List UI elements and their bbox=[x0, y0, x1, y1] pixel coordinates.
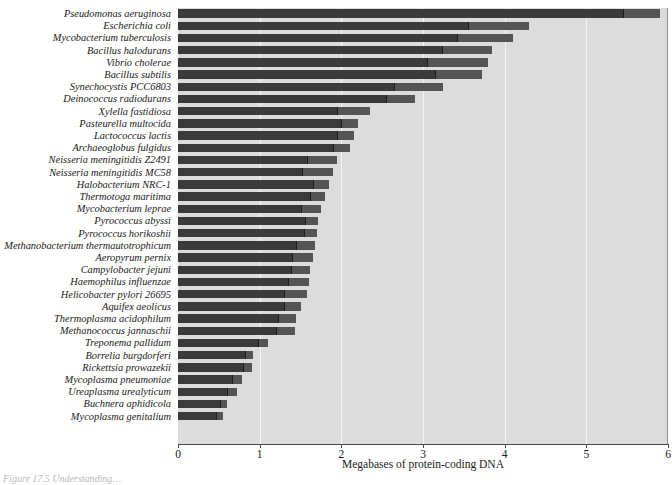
bar-row[interactable] bbox=[178, 130, 667, 142]
y-axis-label: Ureaplasma urealyticum bbox=[68, 386, 171, 398]
y-axis-label: Helicobacter pylori 26695 bbox=[61, 289, 171, 301]
bar-row[interactable] bbox=[178, 398, 667, 410]
bar[interactable] bbox=[178, 241, 315, 249]
bar-row[interactable] bbox=[178, 154, 667, 166]
y-axis-label: Deinococcus radiodurans bbox=[63, 93, 171, 105]
bar[interactable] bbox=[178, 278, 309, 286]
y-axis-label: Pasteurella multocida bbox=[79, 118, 171, 130]
bar[interactable] bbox=[178, 290, 307, 298]
bar-row[interactable] bbox=[178, 81, 667, 93]
bar-row[interactable] bbox=[178, 252, 667, 264]
bar-row[interactable] bbox=[178, 93, 667, 105]
bar[interactable] bbox=[178, 375, 242, 383]
bar[interactable] bbox=[178, 107, 370, 115]
bar-row[interactable] bbox=[178, 276, 667, 288]
bar-row[interactable] bbox=[178, 350, 667, 362]
bar-row[interactable] bbox=[178, 32, 667, 44]
bar[interactable] bbox=[178, 217, 318, 225]
bar[interactable] bbox=[178, 144, 350, 152]
bar[interactable] bbox=[178, 253, 313, 261]
bar[interactable] bbox=[178, 95, 415, 103]
bar[interactable] bbox=[178, 70, 482, 78]
bar[interactable] bbox=[178, 339, 268, 347]
bar[interactable] bbox=[178, 34, 513, 42]
bar-row[interactable] bbox=[178, 362, 667, 374]
bar-row[interactable] bbox=[178, 337, 667, 349]
bar-end-segment bbox=[291, 266, 311, 274]
bar[interactable] bbox=[178, 400, 227, 408]
y-axis-label: Methanobacterium thermautotrophicum bbox=[4, 240, 171, 252]
figure-root: Pseudomonas aeruginosaEscherichia coliMy… bbox=[0, 0, 672, 485]
bar-end-segment bbox=[278, 314, 297, 322]
bar[interactable] bbox=[178, 156, 337, 164]
y-axis-label: Mycobacterium leprae bbox=[77, 203, 171, 215]
bar-row[interactable] bbox=[178, 8, 667, 20]
y-axis-label: Escherichia coli bbox=[103, 20, 171, 32]
bar-row[interactable] bbox=[178, 264, 667, 276]
bar[interactable] bbox=[178, 327, 295, 335]
bar-row[interactable] bbox=[178, 325, 667, 337]
bar-row[interactable] bbox=[178, 374, 667, 386]
bar-row[interactable] bbox=[178, 179, 667, 191]
bar[interactable] bbox=[178, 83, 443, 91]
y-axis-label: Borrelia burgdorferi bbox=[85, 350, 171, 362]
bar-row[interactable] bbox=[178, 191, 667, 203]
bar-end-segment bbox=[305, 217, 319, 225]
bar-row[interactable] bbox=[178, 118, 667, 130]
y-axis-label: Aeropyrum pernix bbox=[95, 252, 171, 264]
bar-row[interactable] bbox=[178, 301, 667, 313]
bar[interactable] bbox=[178, 131, 354, 139]
bar-series bbox=[178, 8, 667, 445]
bar-row[interactable] bbox=[178, 289, 667, 301]
bar-row[interactable] bbox=[178, 45, 667, 57]
bar-end-segment bbox=[333, 144, 349, 152]
y-axis-label: Bacillus halodurans bbox=[87, 45, 171, 57]
y-axis-label: Campylobacter jejuni bbox=[81, 264, 171, 276]
bar-row[interactable] bbox=[178, 57, 667, 69]
y-axis-label: Haemophilus influenzae bbox=[70, 276, 171, 288]
y-axis-label: Pseudomonas aeruginosa bbox=[64, 8, 171, 20]
y-axis-label: Mycobacterium tuberculosis bbox=[53, 32, 171, 44]
bar[interactable] bbox=[178, 46, 492, 54]
bar[interactable] bbox=[178, 412, 223, 420]
bar-row[interactable] bbox=[178, 313, 667, 325]
bar[interactable] bbox=[178, 229, 317, 237]
bar-row[interactable] bbox=[178, 20, 667, 32]
bar[interactable] bbox=[178, 22, 529, 30]
bar[interactable] bbox=[178, 9, 660, 17]
bar[interactable] bbox=[178, 266, 310, 274]
bar-row[interactable] bbox=[178, 228, 667, 240]
bar-end-segment bbox=[310, 192, 325, 200]
figure-caption: Figure 17.5 Understanding… bbox=[3, 473, 121, 484]
bar[interactable] bbox=[178, 388, 237, 396]
bar[interactable] bbox=[178, 314, 296, 322]
bar-row[interactable] bbox=[178, 203, 667, 215]
bar-end-segment bbox=[288, 278, 308, 286]
bar-row[interactable] bbox=[178, 240, 667, 252]
bar-end-segment bbox=[301, 205, 321, 213]
bar-row[interactable] bbox=[178, 69, 667, 81]
bar[interactable] bbox=[178, 192, 325, 200]
bar-row[interactable] bbox=[178, 142, 667, 154]
bar-row[interactable] bbox=[178, 386, 667, 398]
bar-end-segment bbox=[307, 156, 337, 164]
y-axis-label: Rickettsia prowazekii bbox=[82, 362, 171, 374]
y-axis-label: Buchnera aphidicola bbox=[84, 398, 171, 410]
y-axis-label: Mycoplasma genitalium bbox=[71, 411, 171, 423]
bar[interactable] bbox=[178, 205, 321, 213]
bar-end-segment bbox=[337, 131, 353, 139]
bar[interactable] bbox=[178, 351, 253, 359]
bar[interactable] bbox=[178, 180, 329, 188]
bar-row[interactable] bbox=[178, 215, 667, 227]
y-axis-label: Neisseria meningitidis Z2491 bbox=[49, 154, 171, 166]
bar[interactable] bbox=[178, 58, 488, 66]
bar-row[interactable] bbox=[178, 106, 667, 118]
bar-row[interactable] bbox=[178, 167, 667, 179]
bar[interactable] bbox=[178, 119, 358, 127]
bar-row[interactable] bbox=[178, 411, 667, 423]
bar[interactable] bbox=[178, 363, 252, 371]
bar[interactable] bbox=[178, 168, 333, 176]
y-axis-label: Thermoplasma acidophilum bbox=[54, 313, 171, 325]
bar[interactable] bbox=[178, 302, 301, 310]
y-axis-label: Neisseria meningitidis MC58 bbox=[49, 167, 171, 179]
